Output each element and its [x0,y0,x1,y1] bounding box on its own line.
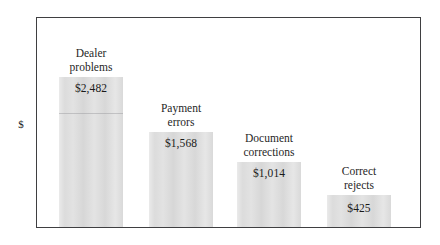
bar-chart: $ Dealer problems $2,482 Payment errors … [0,0,440,245]
bar-label-line1: Dealer [37,47,145,61]
bar-value-payment-errors: $1,568 [149,137,213,149]
bar-value-document-corrections: $1,014 [237,167,301,179]
bar-value-correct-rejects: $425 [327,202,391,214]
bar-label-document-corrections: Document corrections [215,132,323,159]
bar-label-line2: problems [37,61,145,75]
bar-label-line1: Correct [305,165,413,179]
y-axis-unit-label: $ [10,118,32,131]
scan-artifact-line [59,113,123,114]
bar-label-line1: Document [215,132,323,146]
bar-label-line2: corrections [215,146,323,160]
bar-dealer-problems[interactable] [59,77,123,227]
bar-group-document-corrections: Document corrections $1,014 [237,162,301,227]
bar-group-correct-rejects: Correct rejects $425 [327,195,391,227]
bar-group-dealer-problems: Dealer problems $2,482 [59,77,123,227]
bar-group-payment-errors: Payment errors $1,568 [149,132,213,227]
bar-label-correct-rejects: Correct rejects [305,165,413,192]
bar-value-dealer-problems: $2,482 [59,82,123,94]
bar-label-line2: errors [127,116,235,130]
bar-label-payment-errors: Payment errors [127,102,235,129]
bar-label-line2: rejects [305,179,413,193]
bar-label-dealer-problems: Dealer problems [37,47,145,74]
bar-label-line1: Payment [127,102,235,116]
plot-area-frame: Dealer problems $2,482 Payment errors $1… [36,17,421,228]
